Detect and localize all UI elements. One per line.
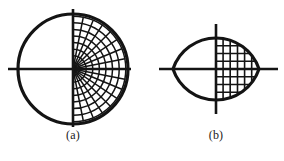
panel-b-lens-cartesian-mesh: [159, 24, 278, 114]
figure-container: (a) (b): [0, 0, 284, 161]
panel-a-caption: (a): [43, 128, 103, 143]
panel-a-circle-polar-mesh: [8, 9, 131, 127]
panel-b-caption: (b): [186, 128, 246, 143]
